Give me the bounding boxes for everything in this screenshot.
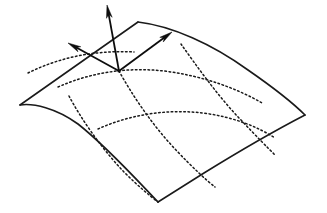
grid-curve-u-2 xyxy=(98,112,275,138)
grid-curves-group xyxy=(28,44,275,202)
surface-diagram xyxy=(0,0,327,213)
grid-curve-v-2 xyxy=(119,71,215,187)
boundary-lower-left xyxy=(20,105,158,202)
tangent-v-shaft xyxy=(119,37,165,71)
figure-container xyxy=(0,0,327,213)
boundary-lower-right xyxy=(158,115,305,202)
tangent-u-arrowhead xyxy=(68,43,81,52)
boundary-upper-left xyxy=(20,22,138,105)
tangent-base-point xyxy=(117,69,120,72)
normal-vector xyxy=(106,5,119,71)
grid-curve-u-1 xyxy=(58,70,262,103)
